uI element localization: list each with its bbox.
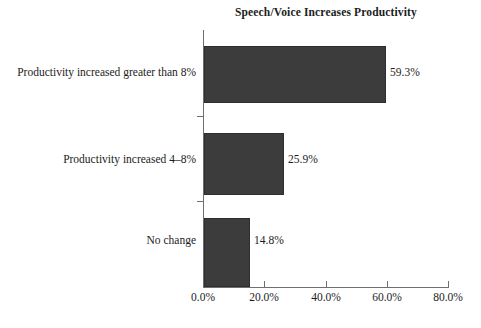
category-label: Productivity increased greater than 8% xyxy=(0,66,196,78)
value-label: 14.8% xyxy=(254,234,284,246)
y-axis-tick xyxy=(197,201,203,202)
x-axis-tick-label: 40.0% xyxy=(296,291,356,303)
x-axis-tick xyxy=(326,281,327,287)
x-axis-tick-label: 60.0% xyxy=(357,291,417,303)
category-label: No change xyxy=(0,234,196,246)
bar-segment xyxy=(204,46,386,103)
chart-title: Speech/Voice Increases Productivity xyxy=(203,6,449,18)
bar-segment xyxy=(204,133,284,195)
x-axis-line xyxy=(203,287,449,288)
x-axis-tick xyxy=(387,281,388,287)
x-axis-tick-label: 0.0% xyxy=(173,291,233,303)
value-label: 25.9% xyxy=(288,153,318,165)
bar-chart: Speech/Voice Increases Productivity Prod… xyxy=(0,0,481,328)
x-axis-tick-label: 20.0% xyxy=(234,291,294,303)
x-axis-tick xyxy=(448,281,449,287)
x-axis-tick xyxy=(264,281,265,287)
x-axis-tick-label: 80.0% xyxy=(418,291,478,303)
bar-segment xyxy=(204,218,250,287)
category-label: Productivity increased 4–8% xyxy=(0,153,196,165)
value-label: 59.3% xyxy=(390,66,420,78)
y-axis-tick xyxy=(197,116,203,117)
